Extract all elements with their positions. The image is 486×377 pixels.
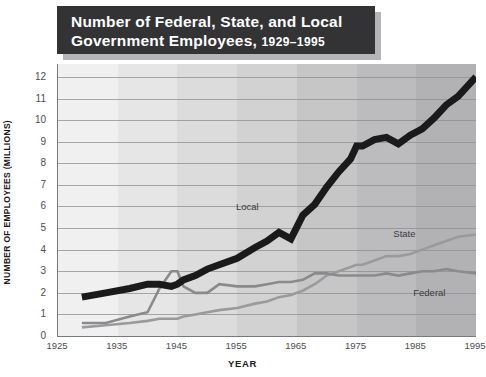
y-axis-tick-label: 12: [16, 72, 46, 82]
y-axis-tick-label: 3: [16, 266, 46, 276]
y-axis-tick-label: 8: [16, 158, 46, 168]
series-label-state: State: [393, 228, 415, 239]
chart-title-subject: Government Employees,: [71, 32, 257, 49]
y-axis-tick-label: 10: [16, 115, 46, 125]
y-axis-tick-labels: 0123456789101112: [0, 64, 52, 336]
x-axis-tick-label: 1935: [106, 340, 127, 351]
chart-title-banner: Number of Federal, State, and Local Gove…: [57, 6, 375, 54]
x-axis-tick-label: 1965: [285, 340, 306, 351]
x-axis-tick-label: 1925: [46, 340, 67, 351]
x-axis-tick-label: 1945: [166, 340, 187, 351]
x-axis-tick-label: 1985: [405, 340, 426, 351]
y-axis-tick-label: 9: [16, 137, 46, 147]
y-axis-tick-label: 4: [16, 245, 46, 255]
y-axis-tick-label: 5: [16, 223, 46, 233]
x-axis-title: YEAR: [0, 358, 485, 369]
chart-title-year-range: 1929–1995: [261, 35, 325, 49]
y-axis-tick-label: 6: [16, 201, 46, 211]
x-axis-tick-label: 1955: [226, 340, 247, 351]
y-axis-tick-label: 2: [16, 288, 46, 298]
y-axis-tick-label: 7: [16, 180, 46, 190]
series-line-local: [82, 77, 476, 297]
chart-title-line-1: Number of Federal, State, and Local: [71, 6, 375, 30]
y-axis-tick-label: 11: [16, 94, 46, 104]
x-axis-tick-label: 1995: [464, 340, 485, 351]
chart-title-line-2: Government Employees, 1929–1995: [71, 30, 375, 51]
series-label-local: Local: [236, 201, 259, 212]
x-axis-tick-labels: 19251935194519551965197519851995: [0, 340, 485, 356]
series-label-federal: Federal: [413, 287, 445, 298]
x-axis-tick-label: 1975: [345, 340, 366, 351]
y-axis-tick-label: 1: [16, 309, 46, 319]
